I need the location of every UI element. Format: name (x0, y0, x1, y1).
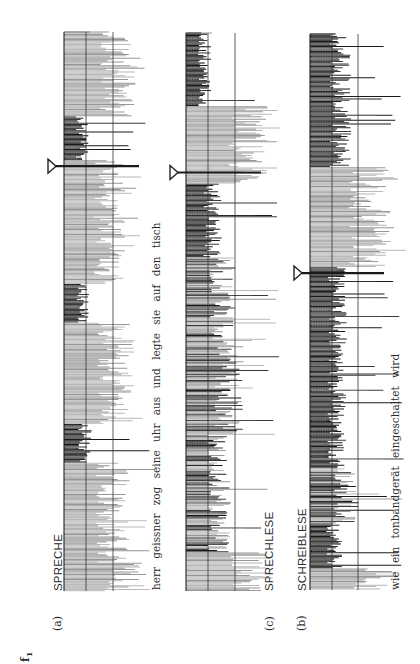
figure-label-letter: f (19, 657, 32, 662)
panel-a-title: SPRECHE (53, 534, 65, 591)
panel-b-caption: wie ein tonbandgerät eingeschaltet wird (390, 354, 401, 590)
panel-b-title: SCHREIBLESE (297, 508, 309, 591)
panel-b-tag: (b) (296, 615, 307, 631)
panel-c-title: SPRECHLESE (264, 512, 276, 591)
panel-a-caption: herr geissner zog seine uhr aus und legt… (151, 223, 162, 590)
chart-panel-a (48, 32, 155, 591)
panel-a-tag: (a) (52, 616, 63, 631)
panel-c-tag: (c) (264, 616, 275, 631)
triangle-marker-icon (294, 266, 302, 280)
figure-label: f1 (20, 652, 33, 662)
triangle-marker-icon (170, 166, 178, 180)
figure-label-number: 1 (24, 652, 34, 658)
chart-panel-c (170, 33, 280, 591)
triangle-marker-icon (48, 159, 56, 173)
